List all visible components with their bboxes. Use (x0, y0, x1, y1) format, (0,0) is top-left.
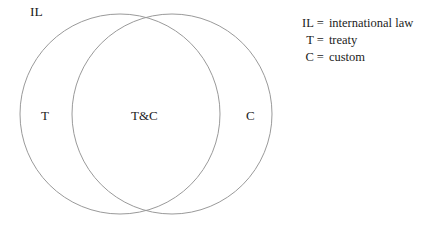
legend-table: IL = international law T = treaty C = cu… (302, 16, 413, 67)
set-label-treaty-and-custom: T&C (131, 109, 158, 122)
legend-equals-c: = (317, 50, 329, 67)
set-label-treaty: T (41, 109, 49, 122)
legend-equals-il: = (317, 16, 329, 33)
universe-label-il: IL (30, 5, 43, 19)
set-label-custom: C (246, 109, 255, 122)
legend-definition-il: international law (329, 16, 413, 33)
legend-equals-t: = (317, 33, 329, 50)
legend-symbol-t: T (302, 33, 317, 50)
treaty-circle (20, 14, 220, 214)
custom-circle (72, 14, 272, 214)
legend-row: IL = international law (302, 16, 413, 33)
legend-definition-c: custom (329, 50, 413, 67)
legend-row: C = custom (302, 50, 413, 67)
legend-row: T = treaty (302, 33, 413, 50)
legend-definition-t: treaty (329, 33, 413, 50)
legend-symbol-c: C (302, 50, 317, 67)
legend-symbol-il: IL (302, 16, 317, 33)
legend: IL = international law T = treaty C = cu… (302, 16, 413, 67)
